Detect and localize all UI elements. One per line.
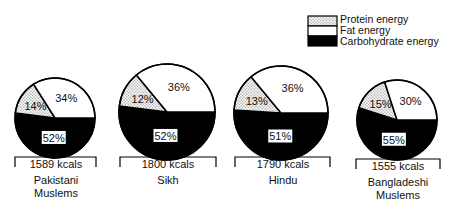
caption-pakistani: 1589 kcals Pakistani Muslems [14,158,98,200]
kcal-label: 1800 kcals [120,158,216,171]
percent-label: 15% [370,98,392,110]
group-label: Sikh [120,174,216,187]
percent-label: 34% [55,92,77,104]
protein-swatch [308,16,337,26]
percent-label: 36% [282,82,304,94]
percent-label: 51% [269,130,291,142]
percent-label: 13% [246,95,268,107]
group-label: Hindu [235,174,331,187]
kcal-label: 1790 kcals [235,158,331,171]
legend-swatches [308,16,337,46]
percent-label: 52% [43,132,65,144]
percent-label: 52% [154,130,176,142]
caption-hindu: 1790 kcals Hindu [235,158,331,187]
percent-label: 14% [24,100,46,112]
fat-swatch [308,26,337,36]
kcal-label: 1555 kcals [356,160,440,173]
legend-carb-label: Carbohydrate energy [340,36,439,47]
carb-swatch [308,36,337,46]
group-label: Muslems [14,187,98,200]
percent-label: 12% [132,93,154,105]
caption-bangladeshi: 1555 kcals Bangladeshi Muslems [356,160,440,202]
group-label: Pakistani [14,174,98,187]
percent-label: 55% [383,134,405,146]
group-label: Muslems [356,189,440,202]
kcal-label: 1589 kcals [14,158,98,171]
percent-label: 36% [168,81,190,93]
caption-sikh: 1800 kcals Sikh [120,158,216,187]
percent-label: 30% [400,95,422,107]
group-label: Bangladeshi [356,176,440,189]
